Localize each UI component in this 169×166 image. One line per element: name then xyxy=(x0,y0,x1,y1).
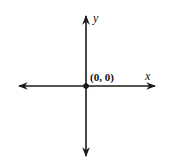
x-axis-label: x xyxy=(144,69,151,83)
coordinate-plane: y x (0, 0) xyxy=(0,0,169,166)
origin-point xyxy=(83,83,89,89)
origin-label: (0, 0) xyxy=(90,71,114,84)
y-axis-label: y xyxy=(92,11,99,25)
